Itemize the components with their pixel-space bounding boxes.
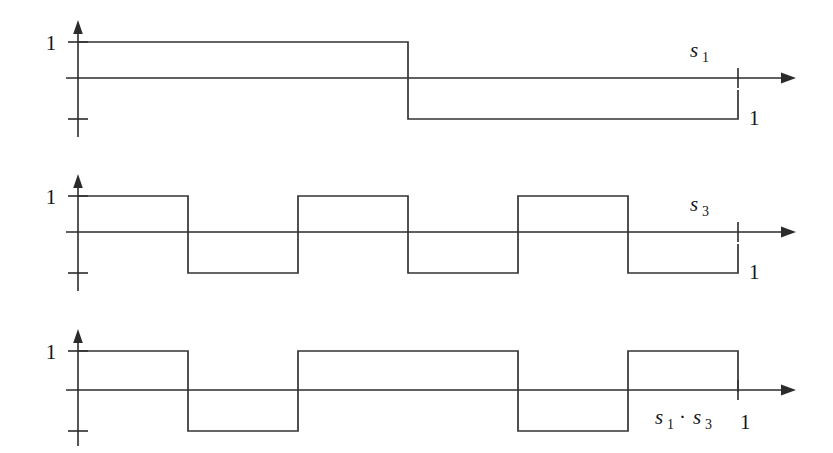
waveform-trace-s3 (78, 196, 738, 273)
signal-label-s1s3: s 1 · s 3 (655, 405, 712, 432)
signal-label-s1: s 1 (690, 38, 709, 65)
panel-s1s3: 1 1 s 1 · s 3 (46, 329, 796, 446)
y-axis-label-s1s3: 1 (46, 340, 57, 364)
y-axis-label-s1: 1 (46, 31, 57, 55)
x-axis-label-s3: 1 (749, 260, 760, 284)
x-axis-arrowhead-s1s3 (781, 385, 796, 396)
multiplication-dot-icon: · (679, 405, 686, 429)
signal-label-s1-main: s (690, 38, 698, 62)
signal-label-s1s3-main-second: s (693, 405, 701, 429)
y-axis-arrowhead-s3 (73, 174, 83, 188)
x-axis-label-s1: 1 (749, 106, 760, 130)
signal-label-s1s3-subscript-second: 3 (705, 417, 712, 432)
panel-s1: 1 1 s 1 (46, 20, 796, 137)
x-axis-arrowhead-s1 (781, 73, 796, 84)
y-axis-arrowhead-s1s3 (73, 329, 83, 343)
signal-label-s3-subscript: 3 (702, 204, 709, 219)
signal-label-s1-subscript: 1 (702, 50, 709, 65)
walsh-function-figure: 1 1 s 1 1 1 s 3 (0, 0, 833, 453)
signal-label-s1s3-main-first: s (655, 405, 663, 429)
waveform-trace-s1 (78, 42, 738, 119)
x-axis-arrowhead-s3 (781, 227, 796, 238)
panel-s3: 1 1 s 3 (46, 174, 796, 291)
signal-label-s3-main: s (690, 192, 698, 216)
waveform-diagram-svg: 1 1 s 1 1 1 s 3 (0, 0, 833, 453)
y-axis-arrowhead-s1 (73, 20, 83, 34)
signal-label-s1s3-subscript-first: 1 (667, 417, 674, 432)
y-axis-label-s3: 1 (46, 185, 57, 209)
x-axis-label-s1s3: 1 (740, 410, 751, 434)
waveform-trace-s1s3 (78, 351, 738, 431)
signal-label-s3: s 3 (690, 192, 709, 219)
